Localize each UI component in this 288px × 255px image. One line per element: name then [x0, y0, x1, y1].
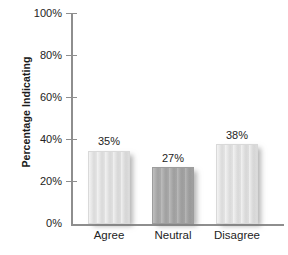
y-tick-mark-60 [66, 97, 77, 98]
y-tick-label-100: 100% [0, 8, 62, 19]
y-axis-line [71, 13, 73, 225]
bar-value-neutral: 27% [140, 153, 206, 164]
y-tick-mark-100 [66, 13, 77, 14]
bar-value-agree: 35% [76, 136, 142, 147]
bar-disagree [216, 144, 258, 224]
bar-neutral [152, 167, 194, 224]
y-tick-label-20: 20% [0, 176, 62, 187]
x-category-label-disagree: Disagree [191, 230, 283, 242]
y-tick-label-0: 0% [0, 218, 62, 229]
y-tick-mark-20 [66, 181, 77, 182]
bar-agree [88, 151, 130, 225]
y-axis-title: Percentage Indicating [20, 22, 32, 202]
bar-chart: Percentage Indicating 100% 80% 60% 40% 2… [0, 0, 288, 255]
bar-value-disagree: 38% [204, 130, 270, 141]
y-tick-label-40: 40% [0, 134, 62, 145]
x-axis-line [71, 224, 284, 226]
y-tick-label-60: 60% [0, 92, 62, 103]
y-tick-mark-80 [66, 55, 77, 56]
y-tick-label-80: 80% [0, 50, 62, 61]
